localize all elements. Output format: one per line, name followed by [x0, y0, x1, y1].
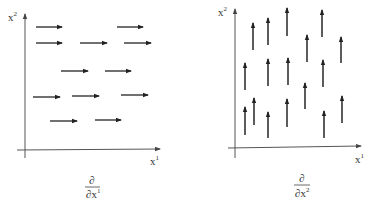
y-axis-label: x2	[8, 10, 18, 23]
caption-denominator: ∂x2	[295, 186, 310, 199]
caption-partial-x1: ∂ ∂x1	[85, 174, 101, 200]
horizontal-arrows	[33, 27, 151, 121]
x-axis-label: x1	[355, 152, 365, 165]
left-diagram: x2 x1 ∂ ∂x1	[8, 10, 160, 200]
caption-denominator: ∂x1	[86, 187, 101, 200]
x-axis-label: x1	[150, 154, 160, 167]
caption-numerator: ∂	[299, 172, 304, 184]
y-axis-label: x2	[218, 5, 228, 18]
caption-numerator: ∂	[89, 174, 94, 186]
right-diagram: x2 x1 ∂ ∂x2	[218, 5, 365, 199]
x-axis	[228, 146, 361, 148]
vector-field-figure: x2 x1 ∂ ∂x1 x2 x1	[0, 0, 370, 205]
caption-partial-x2: ∂ ∂x2	[294, 172, 310, 199]
x-axis	[17, 149, 160, 150]
vertical-arrows	[245, 8, 342, 138]
